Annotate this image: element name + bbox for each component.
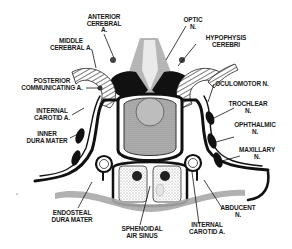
label-line: N. [218,212,258,219]
label-hypophysis-cerebri: HYPOPHYSIS CEREBRI [204,35,248,48]
label-internal-carotid-artery-right: INTERNAL CAROTID A. [185,222,229,235]
label-line: OCULOMOTOR N. [214,81,270,88]
label-abducent-nerve: ABDUCENT N. [218,205,258,218]
label-line: N. [180,24,206,31]
label-internal-carotid-artery-left: INTERNAL CAROTID A. [30,108,74,121]
stray-mark [16,193,18,195]
label-line: CAROTID A. [185,229,229,236]
label-line: COMMUNICATING A. [16,85,88,92]
label-trochlear-nerve: TROCHLEAR N. [228,101,268,114]
label-ophthalmic-nerve: OPHTHALMIC N. [232,122,278,135]
sphenoidal-sinus [113,162,187,206]
label-inner-dura-mater: INNER DURA MATER [24,131,70,144]
label-line: N. [228,108,268,115]
label-line: CAROTID A. [30,115,74,122]
label-posterior-communicating-artery: POSTERIOR COMMUNICATING A. [16,78,88,91]
label-oculomotor-nerve: OCULOMOTOR N. [214,81,270,88]
label-line: DURA MATER [49,217,95,224]
label-sphenoidal-air-sinus: SPHENOIDAL AIR SINUS [120,226,164,239]
label-line: A. [84,27,124,34]
label-line: AIR SINUS [120,233,164,240]
label-optic-nerve: OPTIC N. [180,17,206,30]
label-anterior-cerebral-artery: ANTERIOR CEREBRAL A. [84,14,124,34]
anatomy-diagram: ANTERIOR CEREBRAL A. MIDDLE CEREBRAL A. … [0,0,292,249]
label-line: CEREBRI [204,42,248,49]
label-line: DURA MATER [24,138,70,145]
hypophysis-body [118,94,182,161]
label-line: N. [237,154,277,161]
label-middle-cerebral-artery: MIDDLE CEREBRAL A. [46,38,96,51]
label-line: CEREBRAL A. [46,45,96,52]
label-line: N. [232,129,278,136]
label-maxillary-nerve: MAXILLARY N. [237,147,277,160]
label-endosteal-dura-mater: ENDOSTEAL DURA MATER [49,210,95,223]
